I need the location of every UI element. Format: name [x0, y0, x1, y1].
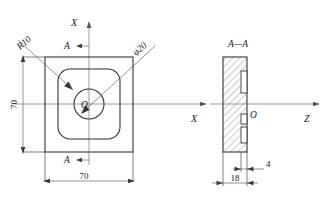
label-dimension-slot-4: 4: [266, 159, 271, 169]
dimension-height-arrow-bottom: [21, 147, 26, 154]
label-section-title: A—A: [227, 39, 248, 49]
z-axis-arrowhead: [313, 102, 320, 107]
label-section-marker-top: A: [63, 41, 70, 51]
label-dimension-height-70: 70: [9, 100, 19, 110]
label-section-marker-bottom: A: [63, 155, 70, 165]
section-marker-bottom-arrowhead: [76, 158, 82, 163]
x-axis-arrowhead-middle: [200, 102, 207, 107]
section-view-slot-upper: [241, 71, 247, 93]
label-dimension-width-70: 70: [80, 171, 90, 181]
dimension-height-70: 70: [9, 55, 45, 154]
drawing-svg: X O A A R10 φ20: [0, 0, 332, 203]
dimension-height-arrow-top: [21, 55, 26, 62]
section-marker-bottom: A: [63, 155, 89, 165]
label-axis-x-top: X: [70, 17, 78, 28]
axis-x-middle: X: [190, 102, 207, 124]
x-axis-arrowhead-top: [87, 21, 92, 28]
dimension-4-arrow-left: [235, 167, 242, 171]
label-origin-section: O: [250, 110, 257, 120]
section-marker-top-arrowhead: [76, 44, 82, 49]
dimension-4-arrow-right: [247, 167, 254, 171]
dimension-18-arrow-right: [247, 181, 254, 185]
label-dimension-thickness-18: 18: [231, 173, 241, 183]
label-diameter-phi20: φ20: [131, 40, 149, 57]
section-view: [210, 57, 320, 152]
diameter-leader-line: [83, 46, 155, 112]
engineering-drawing-canvas: X O A A R10 φ20: [0, 0, 332, 203]
dimension-width-arrow-right: [128, 179, 135, 184]
front-view: [15, 21, 205, 165]
dimension-slot-4: 4: [233, 152, 271, 172]
dimension-18-arrow-left: [217, 181, 224, 185]
section-marker-top: A: [63, 41, 89, 51]
label-axis-x-middle: X: [190, 113, 198, 124]
dimension-width-arrow-left: [43, 179, 50, 184]
section-view-slot-lower-a: [241, 114, 247, 124]
label-axis-z: Z: [304, 113, 310, 124]
label-radius-r10: R10: [14, 34, 33, 52]
section-view-slot-lower-b: [241, 127, 247, 143]
